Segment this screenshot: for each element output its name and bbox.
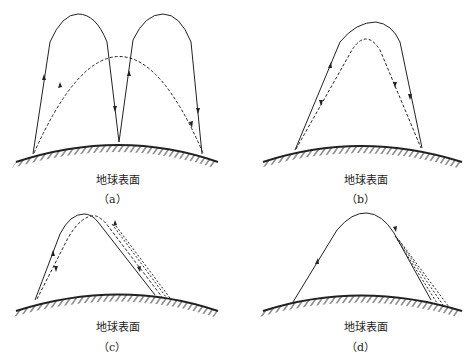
caption-b: （b） — [346, 190, 375, 206]
arrow-down-icon — [54, 266, 58, 272]
diagram-canvas — [0, 0, 473, 360]
ground-label-c: 地球表面 — [96, 318, 140, 334]
earth-hatch-b — [259, 146, 462, 168]
ground-label-d: 地球表面 — [344, 318, 388, 334]
caption-c: （c） — [98, 338, 126, 354]
arrow-up-icon — [127, 70, 131, 76]
panel-d — [259, 213, 462, 317]
arrow-down-icon — [393, 82, 397, 88]
arrow-up-icon — [58, 82, 62, 88]
earth-hatch-a — [12, 145, 218, 168]
dashed-path-d3 — [399, 240, 449, 307]
ground-label-b: 地球表面 — [344, 171, 388, 187]
ground-label-a: 地球表面 — [96, 171, 140, 187]
arrow-down-icon — [196, 108, 200, 114]
panel-a — [12, 14, 218, 168]
dashed-path-c — [37, 216, 162, 299]
dashed-path-b — [296, 39, 421, 149]
solid-path-a — [33, 14, 202, 154]
caption-a: （a） — [98, 190, 127, 206]
panel-c — [12, 214, 218, 317]
arrow-up-icon — [51, 250, 55, 256]
arrow-up-icon — [315, 258, 319, 264]
dashed-path-c2 — [112, 224, 166, 297]
arrow-up-icon — [113, 220, 117, 226]
arrow-down-icon — [137, 266, 141, 272]
earth-hatch-d — [259, 296, 462, 318]
panel-b — [259, 22, 462, 168]
arrow-down-icon — [319, 100, 323, 106]
earth-hatch-c — [12, 295, 218, 318]
arrow-down-icon — [393, 226, 397, 232]
dashed-path-d2 — [397, 238, 443, 305]
caption-d: （d） — [346, 338, 375, 354]
solid-path-d — [293, 213, 431, 302]
dashed-path-c3 — [116, 226, 170, 298]
arrow-down-icon — [113, 106, 117, 112]
solid-path-b — [295, 22, 422, 150]
